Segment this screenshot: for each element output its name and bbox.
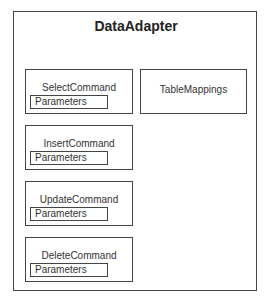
select-parameters-box: Parameters (30, 95, 108, 109)
insert-parameters-box: Parameters (30, 151, 108, 165)
update-parameters-box: Parameters (30, 207, 108, 221)
update-command-label: UpdateCommand (26, 194, 132, 205)
delete-parameters-box: Parameters (30, 263, 108, 277)
dataadapter-title: DataAdapter (13, 18, 259, 34)
update-command-box: UpdateCommand Parameters (25, 181, 133, 226)
table-mappings-box: TableMappings (140, 69, 247, 114)
delete-command-box: DeleteCommand Parameters (25, 237, 133, 282)
delete-command-label: DeleteCommand (26, 250, 132, 261)
select-command-label: SelectCommand (26, 82, 132, 93)
select-command-box: SelectCommand Parameters (25, 69, 133, 114)
table-mappings-label: TableMappings (141, 84, 246, 95)
insert-command-box: InsertCommand Parameters (25, 125, 133, 170)
insert-command-label: InsertCommand (26, 138, 132, 149)
